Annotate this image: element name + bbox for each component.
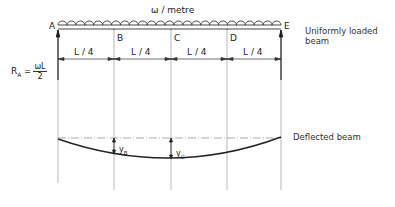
- point-label-d: D: [230, 34, 237, 43]
- span-label-1: L / 4: [74, 48, 94, 57]
- udl-load-arcs: [58, 21, 281, 25]
- point-label-a: A: [49, 22, 55, 31]
- deflection-label-b: yB: [119, 146, 128, 156]
- span-label-4: L / 4: [243, 48, 263, 57]
- point-label-e: E: [284, 22, 290, 31]
- deflection-label-c: yC: [176, 150, 185, 160]
- dimension-line: [58, 58, 281, 61]
- point-label-c: C: [174, 34, 180, 43]
- span-label-3: L / 4: [187, 48, 207, 57]
- span-label-2: L / 4: [131, 48, 151, 57]
- point-label-b: B: [117, 34, 123, 43]
- deflected-beam-title: Deflected beam: [293, 132, 361, 142]
- loaded-beam-title: Uniformly loaded beam: [305, 26, 378, 46]
- load-label: ω / metre: [151, 6, 194, 15]
- loaded-beam: [58, 25, 281, 29]
